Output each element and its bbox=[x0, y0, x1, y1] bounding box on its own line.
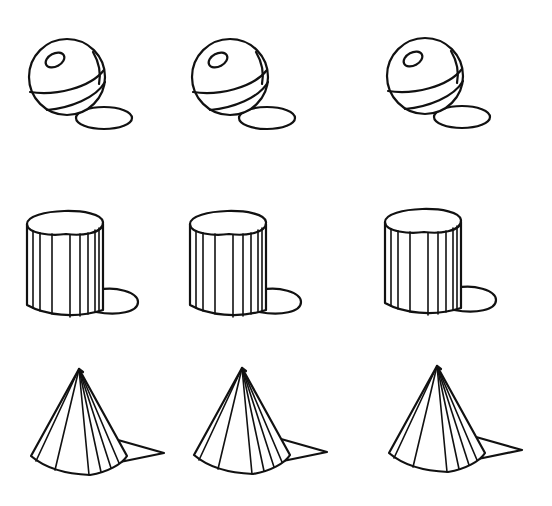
sphere-1 bbox=[29, 39, 132, 129]
cone-1 bbox=[31, 369, 164, 475]
cylinder-2 bbox=[190, 211, 301, 317]
cylinder-3 bbox=[385, 209, 496, 315]
sphere-3 bbox=[387, 38, 490, 128]
cone-2 bbox=[194, 368, 327, 474]
shapes-illustration bbox=[0, 0, 552, 506]
sphere-2 bbox=[192, 39, 295, 129]
cone-3 bbox=[389, 366, 522, 472]
cylinder-1 bbox=[27, 211, 138, 317]
